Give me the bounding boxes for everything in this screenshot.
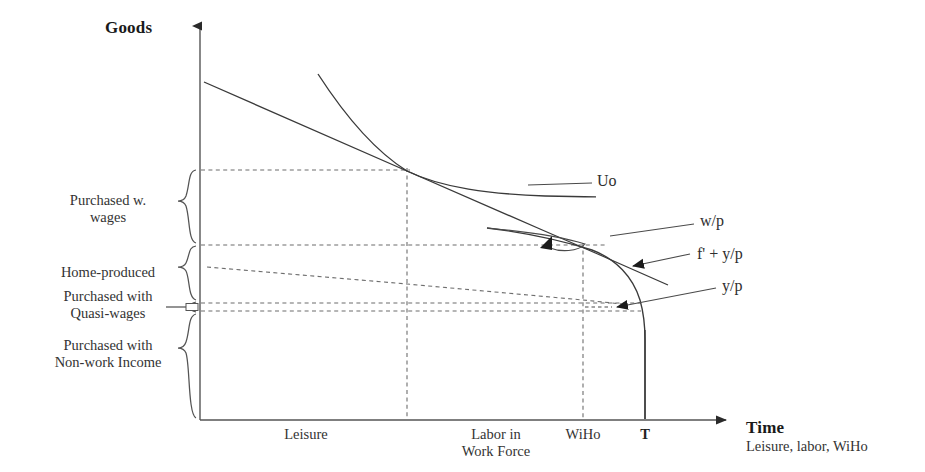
x-axis-title: Time bbox=[746, 418, 784, 438]
axis-group bbox=[200, 26, 726, 420]
label-nonlabor-income: y/p bbox=[722, 277, 742, 296]
x-tick-leisure: Leisure bbox=[256, 426, 356, 443]
wp-leader-line bbox=[610, 224, 694, 236]
y-axis-title: Goods bbox=[105, 18, 152, 38]
production-frontier-curve bbox=[487, 228, 645, 419]
x-tick-labor: Labor in Work Force bbox=[441, 426, 551, 460]
x-tick-t: T bbox=[630, 426, 660, 443]
fyp-leader-line bbox=[633, 254, 690, 266]
bracket-label-purchased-wages: Purchased w. wages bbox=[18, 192, 198, 226]
figure-canvas: Goods Time Leisure, labor, WiHo Purchase… bbox=[0, 0, 925, 472]
x-tick-wiho: WiHo bbox=[553, 426, 613, 443]
reference-lines bbox=[201, 168, 641, 419]
bracket-label-home-produced: Home-produced bbox=[18, 264, 198, 281]
bracket-label-quasi-wages: Purchased with Quasi-wages bbox=[18, 288, 198, 322]
economics-diagram bbox=[0, 0, 925, 472]
uo-leader-line bbox=[528, 183, 592, 185]
label-wage-rate: w/p bbox=[700, 212, 724, 231]
home-produced-dotted-curve bbox=[207, 267, 622, 304]
bracket-label-nonwork-income: Purchased with Non-work Income bbox=[12, 337, 204, 371]
yp-leader-line bbox=[617, 288, 716, 307]
indifference-curve-uo bbox=[318, 74, 596, 197]
label-production-plus-income: f' + y/p bbox=[697, 245, 743, 264]
label-uo: Uo bbox=[597, 172, 617, 191]
x-axis-subtitle: Leisure, labor, WiHo bbox=[746, 438, 868, 455]
wage-pointer-loop bbox=[487, 228, 585, 251]
